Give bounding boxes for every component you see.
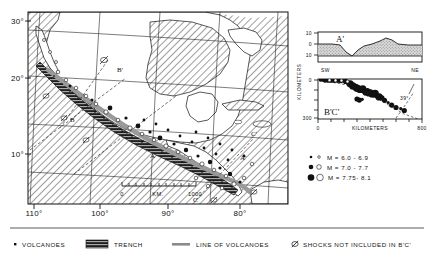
scale-bar-unit: KM. [152,191,163,197]
magnitude-legend-row-1: M = 6.0 - 6.9 [327,154,368,161]
map-section-label-B: B [70,116,75,124]
cross-section-xtick-800: 800 [417,125,427,131]
cross-section-direction-ne: NE [411,67,419,73]
dip-angle-label: 39° [400,95,409,101]
cross-section-xtick-0: 0 [316,125,319,131]
map-lat-tick-30: 30° [11,17,24,26]
volcano-dot-icon [14,243,16,245]
magnitude-symbol-medium-filled [309,165,314,170]
scale-bar-start: 0 [120,191,124,197]
cross-section-top-label: A' [336,34,344,44]
magnitude-symbol-large-open [317,174,324,181]
cross-section-bottom-label: B'C' [324,107,340,117]
cross-section-bottom-ytick-0: 0 [309,77,312,83]
magnitude-symbol-small-filled [310,156,313,159]
cross-section-top-ytick-0: 0 [309,41,312,47]
cross-section-direction-sw: SW [321,67,330,73]
figure-root: B B' C C' A A' 30° 20° 10° 110° 100° 90°… [0,0,434,266]
magnitude-legend-row-2: M = 7.0 - 7.7 [327,164,368,171]
map-section-label-A-prime: A' [240,154,246,162]
cross-section-top-ytick-10b: 10 [306,52,312,58]
magnitude-legend-row-3: M = 7.75- 8.1 [328,174,371,181]
map-section-label-A: A [150,152,155,160]
legend-label-line-of-volcanoes: LINE OF VOLCANOES [196,241,269,248]
figure-svg: B B' C C' A A' 30° 20° 10° 110° 100° 90°… [0,0,434,266]
cross-section-top-ytick-10a: 10 [306,30,312,36]
magnitude-symbol-large-filled [308,174,315,181]
map-section-label-C-prime: C' [251,130,257,138]
magnitude-symbol-medium-open [317,165,322,170]
map-lon-tick-100: 100° [91,209,109,218]
map-lat-tick-10: 10° [11,150,24,159]
scale-bar-end: 1000 [188,191,202,197]
map-lon-tick-80: 80° [234,209,247,218]
map-section-label-C: C [193,196,198,204]
legend-label-trench: TRENCH [114,241,143,248]
map-lon-tick-110: 110° [25,209,42,218]
map-lon-tick-90: 90° [162,209,175,218]
map-section-label-B-prime: B' [117,66,123,74]
magnitude-symbol-small-open [318,156,321,159]
trench-hatch-icon [86,240,108,248]
volcano-line-icon [172,243,190,246]
excluded-shock-icon [292,241,298,247]
cross-section-y-axis-title: KILOMETERS [296,64,302,100]
map-lat-tick-20: 20° [11,74,24,83]
middle-america-map: B B' C C' A A' 30° 20° 10° 110° 100° 90°… [11,12,288,218]
cross-section-x-axis-title: KILOMETERS [352,125,388,131]
legend-label-excluded-shocks: SHOCKS NOT INCLUDED IN B'C' [303,241,411,248]
legend-label-volcanoes: VOLCANOES [22,241,65,248]
cross-section-bottom-ytick-300: 300 [302,115,312,121]
